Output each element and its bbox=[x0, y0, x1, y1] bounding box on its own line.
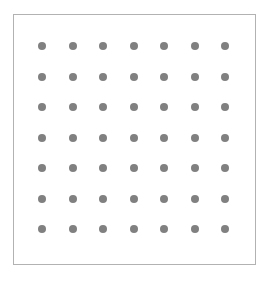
grid-dot bbox=[99, 164, 107, 172]
grid-dot bbox=[69, 73, 77, 81]
grid-dot bbox=[191, 225, 199, 233]
grid-dot bbox=[69, 225, 77, 233]
grid-dot bbox=[221, 225, 229, 233]
grid-dot bbox=[99, 42, 107, 50]
grid-dot bbox=[221, 42, 229, 50]
grid-dot bbox=[191, 73, 199, 81]
grid-dot bbox=[221, 73, 229, 81]
grid-dot bbox=[191, 42, 199, 50]
grid-dot bbox=[99, 103, 107, 111]
grid-dot bbox=[99, 225, 107, 233]
grid-dot bbox=[191, 134, 199, 142]
grid-dot bbox=[130, 225, 138, 233]
grid-dot bbox=[69, 103, 77, 111]
grid-dot bbox=[130, 164, 138, 172]
grid-dot bbox=[38, 134, 46, 142]
grid-dot bbox=[99, 195, 107, 203]
grid-dot bbox=[160, 195, 168, 203]
grid-dot bbox=[221, 103, 229, 111]
grid-dot bbox=[99, 134, 107, 142]
grid-dot bbox=[69, 42, 77, 50]
grid-dot bbox=[38, 73, 46, 81]
grid-dot bbox=[221, 164, 229, 172]
grid-dot bbox=[38, 42, 46, 50]
grid-dot bbox=[221, 134, 229, 142]
grid-dot bbox=[99, 73, 107, 81]
grid-dot bbox=[160, 134, 168, 142]
grid-dot bbox=[191, 164, 199, 172]
grid-dot bbox=[130, 195, 138, 203]
grid-dot bbox=[38, 225, 46, 233]
grid-dot bbox=[160, 164, 168, 172]
grid-dot bbox=[130, 134, 138, 142]
grid-dot bbox=[191, 195, 199, 203]
grid-dot bbox=[191, 103, 199, 111]
grid-dot bbox=[130, 73, 138, 81]
grid-dot bbox=[130, 103, 138, 111]
grid-dot bbox=[69, 195, 77, 203]
dot-grid-panel bbox=[13, 14, 256, 265]
canvas-root bbox=[0, 0, 269, 281]
dot-grid bbox=[14, 15, 255, 264]
grid-dot bbox=[69, 134, 77, 142]
grid-dot bbox=[38, 164, 46, 172]
grid-dot bbox=[160, 225, 168, 233]
grid-dot bbox=[38, 195, 46, 203]
grid-dot bbox=[38, 103, 46, 111]
grid-dot bbox=[160, 103, 168, 111]
grid-dot bbox=[160, 42, 168, 50]
grid-dot bbox=[221, 195, 229, 203]
grid-dot bbox=[160, 73, 168, 81]
grid-dot bbox=[130, 42, 138, 50]
grid-dot bbox=[69, 164, 77, 172]
